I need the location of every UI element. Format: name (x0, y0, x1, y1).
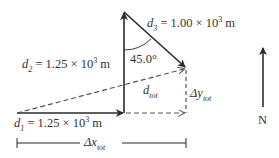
label-dx: Δxtot (84, 136, 105, 149)
label-dy: Δytot (190, 87, 211, 100)
label-d2: d2 = 1.25 × 103 m (22, 58, 110, 71)
label-d1: d1 = 1.25 × 103 m (14, 117, 102, 130)
label-angle: 45.0° (130, 53, 157, 66)
vector-dtot (17, 69, 184, 113)
label-north: N (258, 114, 267, 127)
vector-diagram (0, 0, 279, 158)
label-dtot: dtot (143, 84, 158, 97)
label-d3: d3 = 1.00 × 103 m (147, 17, 235, 30)
angle-arc (124, 39, 151, 50)
